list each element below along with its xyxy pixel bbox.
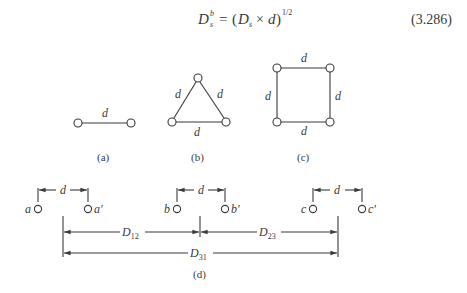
caption-c: (c) [297,151,310,164]
conductor-label-c-prime: c' [368,202,376,216]
conductor-label-b: b [164,202,170,216]
spacing-label-d: d [334,183,341,197]
eq-lhs-sup: b [210,9,214,18]
conductor-label-b-prime: b' [231,202,240,216]
spacing-label-d: d [60,183,67,197]
spacing-label-d: d [198,183,205,197]
edge-label-d: d [301,124,308,138]
caption-d: (d) [193,268,206,281]
eq-term1-base: D [237,11,249,27]
eq-lhs-base: D [197,11,209,27]
distance-label-d31: D31 [189,246,207,262]
eq-close-paren: ) [276,11,281,28]
conductor-circle [127,119,135,127]
edge-label-d: d [335,89,342,103]
equation: D b s = ( D s × d ) 1/2 (3.286) [197,8,452,29]
bundled-conductor-diagram: D b s = ( D s × d ) 1/2 (3.286) [0,0,467,293]
conductor-label-a-prime: a' [94,202,103,216]
figure-a [74,119,135,127]
edge-label-d: d [175,87,182,101]
equation-number: (3.286) [411,12,452,28]
edge-label-d: d [102,106,109,120]
conductor-label-a: a [25,202,31,216]
eq-exponent: 1/2 [282,8,292,17]
figure-d [34,188,365,257]
distance-label-d12: D12 [121,225,139,241]
caption-b: (b) [191,151,204,164]
edge-label-d: d [301,51,308,65]
conductor-label-c: c [301,202,307,216]
eq-times: × [256,12,264,27]
eq-open-paren: ( [232,11,237,28]
eq-term1-sub: s [249,20,252,29]
conductor-circle [74,119,82,127]
edge-label-d: d [265,89,272,103]
figure-c [273,64,334,126]
caption-a: (a) [97,151,110,164]
edge-label-d: d [194,125,201,139]
distance-label-d23: D23 [258,225,276,241]
eq-term2: d [268,11,276,27]
edge-label-d: d [217,87,224,101]
eq-lhs-sub: s [210,20,213,29]
eq-equals: = [219,11,227,27]
